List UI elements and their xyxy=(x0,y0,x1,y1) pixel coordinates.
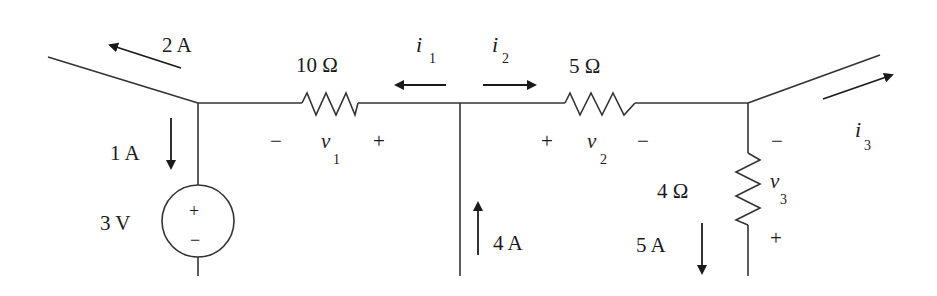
v1-subscript: 1 xyxy=(333,152,340,167)
label-4A: 4 A xyxy=(493,231,524,255)
v1-minus: − xyxy=(270,129,282,153)
i3-label: i xyxy=(855,117,861,142)
i3-subscript: 3 xyxy=(864,138,871,153)
v2-plus: + xyxy=(541,129,553,153)
left-diagonal-wire xyxy=(48,57,198,103)
label-4-ohm: 4 Ω xyxy=(657,179,688,203)
v3-minus: − xyxy=(771,129,783,153)
wires xyxy=(48,55,880,276)
v3-label: v xyxy=(770,169,780,193)
label-5-ohm: 5 Ω xyxy=(569,54,600,78)
source-minus: − xyxy=(190,230,200,250)
label-3V: 3 V xyxy=(100,211,131,235)
v3-subscript: 3 xyxy=(780,192,787,207)
label-2A: 2 A xyxy=(162,33,193,57)
resistor-5-ohm xyxy=(565,93,635,115)
arrow-i3 xyxy=(823,75,892,99)
v3-plus: + xyxy=(770,226,782,250)
v1-label: v xyxy=(321,129,331,153)
i2-label: i xyxy=(492,32,498,57)
v1-plus: + xyxy=(373,129,385,153)
label-10-ohm: 10 Ω xyxy=(296,53,338,77)
v2-subscript: 2 xyxy=(600,152,607,167)
resistor-4-ohm xyxy=(736,153,760,225)
label-5A: 5 A xyxy=(636,233,667,257)
v2-minus: − xyxy=(637,129,649,153)
i1-subscript: 1 xyxy=(429,51,436,66)
source-plus: + xyxy=(189,201,199,221)
circuit-diagram: 2 A 1 A 3 V + − 10 Ω − v 1 + i 1 i 2 5 Ω… xyxy=(0,0,937,296)
label-1A: 1 A xyxy=(110,141,141,165)
resistor-10-ohm xyxy=(302,93,358,115)
v2-label: v xyxy=(587,129,597,153)
right-diagonal-wire xyxy=(748,55,880,103)
i1-label: i xyxy=(416,32,422,57)
i2-subscript: 2 xyxy=(502,51,509,66)
